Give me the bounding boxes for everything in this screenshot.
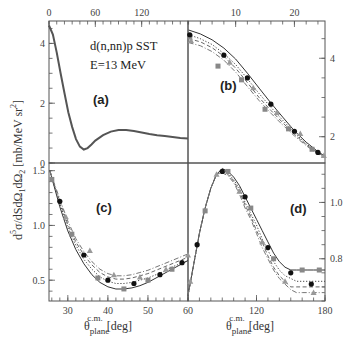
marker-circle-c bbox=[157, 272, 162, 277]
x-tick-label-c: 30 bbox=[63, 305, 73, 316]
marker-circle-d bbox=[195, 242, 200, 247]
x-axis-title-left: θplanec.m.[deg] bbox=[84, 313, 132, 336]
marker-square-b bbox=[263, 107, 268, 112]
y-tick-label-b: 2 bbox=[330, 131, 335, 142]
marker-circle-b bbox=[187, 32, 192, 37]
ylabel-units: [mb/MeV sr bbox=[11, 108, 25, 170]
panel-label-b: (b) bbox=[220, 78, 237, 93]
x-tick-label-c: 50 bbox=[143, 305, 153, 316]
reaction-annotation: d(n,nn)p SST bbox=[90, 39, 158, 53]
marker-square-d bbox=[317, 268, 322, 273]
panel-label-a: (a) bbox=[93, 92, 109, 107]
marker-circle-c bbox=[179, 260, 184, 265]
xlabel-sup: c.m. bbox=[87, 313, 103, 323]
x-tick-label-d: 60 bbox=[183, 305, 193, 316]
marker-square-b bbox=[215, 64, 220, 69]
svg-text:d5σ/dSdΩ1dΩ2 [mb/MeV sr2]: d5σ/dSdΩ1dΩ2 [mb/MeV sr2] bbox=[9, 100, 27, 240]
marker-circle-c bbox=[57, 199, 62, 204]
svg-text:θplanec.m.[deg]: θplanec.m.[deg] bbox=[84, 313, 132, 336]
panel-label-d: (d) bbox=[290, 201, 307, 216]
y-tick-label-d: 0.8 bbox=[330, 253, 343, 264]
x-tick-label-b: 10 bbox=[231, 7, 241, 18]
series-line-d-solid bbox=[188, 169, 325, 296]
marker-circle-d bbox=[242, 194, 247, 199]
marker-circle-b bbox=[221, 53, 226, 58]
y-tick-label-a: 2 bbox=[40, 98, 45, 109]
ylabel-rest: σ/dSdΩ bbox=[11, 193, 25, 230]
marker-square-d bbox=[225, 169, 230, 174]
chart-figure: 0601200241020243040500.51.01.5601201800.… bbox=[0, 0, 351, 342]
series-line-b-dotted bbox=[189, 35, 324, 156]
marker-square-c bbox=[95, 276, 100, 281]
xlabel-units: [deg] bbox=[107, 319, 132, 333]
marker-square-c bbox=[169, 267, 174, 272]
xlabel-sup: c.m. bbox=[229, 313, 245, 323]
series-line-c-dash-dot bbox=[50, 171, 188, 276]
marker-circle-c bbox=[131, 281, 136, 286]
x-tick-label-a: 0 bbox=[47, 7, 52, 18]
y-tick-label-b: 4 bbox=[330, 53, 335, 64]
svg-text:θplanec.m.[deg]: θplanec.m.[deg] bbox=[226, 313, 274, 336]
marker-square-c bbox=[69, 232, 74, 237]
marker-circle-b bbox=[268, 102, 273, 107]
y-tick-label-c: 1.5 bbox=[33, 165, 46, 176]
x-tick-label-d: 120 bbox=[249, 305, 264, 316]
marker-circle-c bbox=[105, 278, 110, 283]
marker-triangle-b bbox=[297, 131, 303, 137]
y-tick-label-c: 1.0 bbox=[33, 220, 46, 231]
marker-triangle-c bbox=[87, 248, 93, 254]
marker-square-d bbox=[300, 268, 305, 273]
y-tick-label-c: 0.5 bbox=[33, 275, 46, 286]
xlabel-units: [deg] bbox=[249, 319, 274, 333]
marker-square-b bbox=[286, 126, 291, 131]
energy-annotation: E=13 MeV bbox=[90, 58, 146, 72]
series-line-d-dash-dot bbox=[188, 173, 325, 296]
x-tick-label-b: 20 bbox=[289, 7, 299, 18]
marker-triangle-b bbox=[227, 59, 233, 64]
marker-circle-d bbox=[265, 245, 270, 250]
marker-square-b bbox=[310, 147, 315, 152]
panel-frame-d bbox=[188, 163, 325, 301]
marker-square-c bbox=[121, 286, 126, 291]
marker-square-b bbox=[239, 77, 244, 82]
x-tick-label-d: 180 bbox=[318, 305, 333, 316]
marker-circle-d bbox=[288, 270, 293, 275]
marker-triangle-c bbox=[111, 272, 117, 278]
x-tick-label-a: 120 bbox=[134, 7, 149, 18]
panel-label-c: (c) bbox=[96, 200, 112, 215]
marker-circle-b bbox=[315, 150, 320, 155]
marker-square-d bbox=[248, 206, 253, 211]
y-tick-label-d: 1.0 bbox=[330, 197, 343, 208]
marker-circle-b bbox=[292, 129, 297, 134]
marker-square-d bbox=[203, 208, 208, 213]
y-axis-title: d5σ/dSdΩ1dΩ2 [mb/MeV sr2] bbox=[9, 100, 27, 240]
x-tick-label-c: 40 bbox=[103, 305, 113, 316]
marker-circle-d bbox=[309, 282, 314, 287]
series-line-b-solid bbox=[189, 30, 324, 156]
x-tick-label-a: 60 bbox=[90, 7, 100, 18]
y-tick-label-a: 4 bbox=[40, 38, 45, 49]
marker-square-c bbox=[145, 278, 150, 283]
x-axis-title-right: θplanec.m.[deg] bbox=[226, 313, 274, 336]
ylabel-mid: dΩ bbox=[11, 174, 25, 189]
marker-circle-d bbox=[220, 169, 225, 174]
marker-circle-b bbox=[245, 75, 250, 80]
marker-square-c bbox=[49, 177, 54, 182]
marker-square-d bbox=[271, 256, 276, 261]
series-line-b-dashed bbox=[189, 39, 324, 156]
marker-circle-c bbox=[81, 252, 86, 257]
ylabel-units-end: ] bbox=[11, 100, 25, 104]
